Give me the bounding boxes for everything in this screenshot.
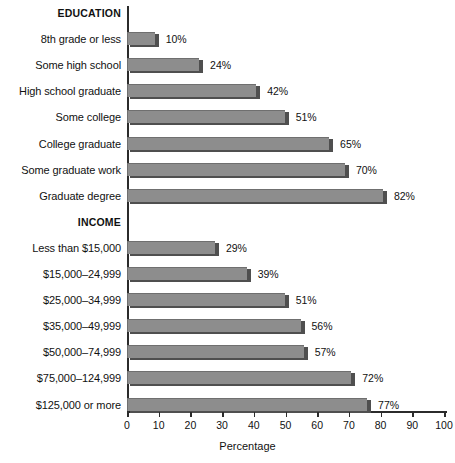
x-axis-tick-label: 50 <box>280 419 292 431</box>
bar <box>127 163 349 178</box>
bar-value-label: 29% <box>226 241 247 256</box>
bar <box>127 319 305 334</box>
bar-value-label: 77% <box>378 398 399 413</box>
category-label: $50,000–74,999 <box>0 346 121 358</box>
section-heading-income: INCOME <box>0 216 121 228</box>
bar <box>127 398 371 413</box>
bar-side-shadow <box>285 295 289 308</box>
bar-bottom-shadow <box>130 332 301 334</box>
bar-fill <box>127 371 351 384</box>
bar-bottom-shadow <box>130 176 345 178</box>
bar <box>127 267 251 282</box>
category-label: $75,000–124,999 <box>0 372 121 384</box>
bar-value-label: 56% <box>312 319 333 334</box>
bar-value-label: 65% <box>340 137 361 152</box>
bar <box>127 110 289 125</box>
bar <box>127 345 308 360</box>
bar-bottom-shadow <box>130 123 285 125</box>
x-axis-tick-label: 0 <box>124 419 130 431</box>
x-axis-tick-label: 100 <box>435 419 453 431</box>
x-axis-tick-label: 70 <box>343 419 355 431</box>
x-axis-tick-label: 10 <box>153 419 165 431</box>
bar-value-label: 70% <box>356 163 377 178</box>
category-label: $35,000–49,999 <box>0 320 121 332</box>
x-axis-tick <box>222 412 224 417</box>
category-label: $125,000 or more <box>0 399 121 411</box>
bar-value-label: 82% <box>394 189 415 204</box>
bar-fill <box>127 319 301 332</box>
x-axis-tick <box>286 412 288 417</box>
category-label: Graduate degree <box>0 190 121 202</box>
bar <box>127 293 289 308</box>
bar-value-label: 10% <box>166 32 187 47</box>
bar-fill <box>127 241 215 254</box>
bar <box>127 137 333 152</box>
bar-value-label: 51% <box>296 293 317 308</box>
bar <box>127 32 159 47</box>
bar <box>127 371 355 386</box>
x-axis-tick <box>127 412 129 417</box>
bar-fill <box>127 398 367 411</box>
x-axis-tick-label: 90 <box>406 419 418 431</box>
bar-fill <box>127 84 256 97</box>
bar-value-label: 24% <box>210 58 231 73</box>
category-label: 8th grade or less <box>0 33 121 45</box>
category-label: $25,000–34,999 <box>0 294 121 306</box>
x-axis-tick <box>190 412 192 417</box>
category-label-column: EDUCATION8th grade or lessSome high scho… <box>0 0 127 412</box>
bar <box>127 84 260 99</box>
bar-fill <box>127 163 345 176</box>
bar-fill <box>127 345 304 358</box>
bar <box>127 189 387 204</box>
bar-bottom-shadow <box>130 306 285 308</box>
bar-bottom-shadow <box>130 45 155 47</box>
bar-bottom-shadow <box>130 150 329 152</box>
bar-side-shadow <box>199 60 203 73</box>
bar-side-shadow <box>383 191 387 204</box>
x-axis-tick-label: 80 <box>375 419 387 431</box>
bar-value-label: 39% <box>258 267 279 282</box>
bar-value-label: 42% <box>267 84 288 99</box>
x-axis-title-text: Percentage <box>219 440 275 452</box>
bar-side-shadow <box>351 373 355 386</box>
category-label: $15,000–24,999 <box>0 268 121 280</box>
bar-bottom-shadow <box>130 202 383 204</box>
bar-fill <box>127 110 285 123</box>
bar-side-shadow <box>155 34 159 47</box>
x-axis-tick <box>254 412 256 417</box>
category-label: Less than $15,000 <box>0 242 121 254</box>
x-axis-tick-label: 60 <box>311 419 323 431</box>
bar-side-shadow <box>247 269 251 282</box>
x-axis-tick-label: 30 <box>216 419 228 431</box>
bar-side-shadow <box>304 347 308 360</box>
bar-value-label: 57% <box>315 345 336 360</box>
bar-side-shadow <box>301 321 305 334</box>
bar-side-shadow <box>367 400 371 413</box>
bar-fill <box>127 58 199 71</box>
x-axis-tick <box>381 412 383 417</box>
bar-side-shadow <box>345 165 349 178</box>
bar-side-shadow <box>329 139 333 152</box>
bar <box>127 58 203 73</box>
plot-area: 10%24%42%51%65%70%82%29%39%51%56%57%72%7… <box>127 0 455 412</box>
category-label: Some high school <box>0 59 121 71</box>
bar <box>127 241 219 256</box>
bar-bottom-shadow <box>130 411 367 413</box>
bar-side-shadow <box>285 112 289 125</box>
x-axis-tick-label: 20 <box>185 419 197 431</box>
bar-fill <box>127 137 329 150</box>
x-axis-title: Percentage <box>0 440 455 452</box>
bar-bottom-shadow <box>130 358 304 360</box>
bar-side-shadow <box>215 243 219 256</box>
bar-bottom-shadow <box>130 384 351 386</box>
bar-fill <box>127 293 285 306</box>
x-axis-tick <box>159 412 161 417</box>
x-axis-tick <box>317 412 319 417</box>
bar-bottom-shadow <box>130 280 247 282</box>
bar-value-label: 72% <box>362 371 383 386</box>
bar-chart: EDUCATION8th grade or lessSome high scho… <box>0 0 455 463</box>
x-axis-tick <box>444 412 446 417</box>
section-heading-education: EDUCATION <box>0 7 121 19</box>
x-axis-tick <box>412 412 414 417</box>
bar-fill <box>127 32 155 45</box>
